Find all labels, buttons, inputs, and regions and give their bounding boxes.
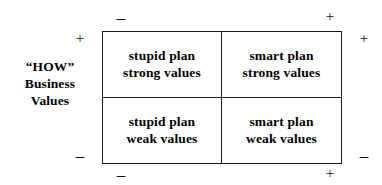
axis-sign-right-bottom: – (356, 147, 372, 164)
quadrant-bottom-left-line-2: weak values (126, 130, 197, 148)
quadrant-bottom-right-line-1: smart plan (249, 113, 313, 131)
axis-sign-top-right: + (322, 9, 338, 24)
axis-sign-bottom-left: – (113, 166, 129, 183)
quadrant-top-right: smart plan strong values (222, 32, 341, 98)
axis-sign-left-bottom: – (72, 147, 88, 164)
matrix-grid: stupid plan strong values smart plan str… (102, 31, 342, 164)
axis-sign-top-left: – (113, 9, 129, 26)
quadrant-bottom-right: smart plan weak values (222, 98, 341, 164)
quadrant-top-left-line-1: stupid plan (129, 47, 196, 65)
vertical-axis-label-line-2: Business (2, 75, 98, 92)
quadrant-bottom-right-line-2: weak values (246, 130, 317, 148)
vertical-axis-label-line-3: Values (2, 92, 98, 109)
quadrant-top-right-line-1: smart plan (249, 47, 313, 65)
quadrant-diagram: – + – + + – + – “HOW” Business Values st… (0, 0, 382, 185)
quadrant-bottom-left-line-1: stupid plan (129, 113, 196, 131)
quadrant-top-left-line-2: strong values (123, 64, 201, 82)
axis-sign-right-top: + (356, 31, 372, 46)
quadrant-top-left: stupid plan strong values (103, 32, 222, 98)
vertical-axis-label: “HOW” Business Values (2, 58, 98, 109)
vertical-axis-label-line-1: “HOW” (2, 58, 98, 75)
axis-sign-left-top: + (72, 31, 88, 46)
quadrant-bottom-left: stupid plan weak values (103, 98, 222, 164)
quadrant-top-right-line-2: strong values (243, 64, 321, 82)
axis-sign-bottom-right: + (322, 166, 338, 181)
